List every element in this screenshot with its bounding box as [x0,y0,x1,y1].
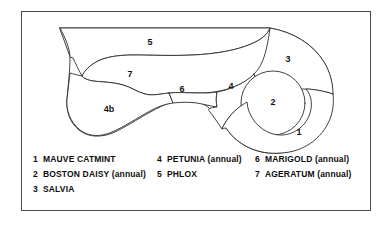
region-label-5: 5 [147,37,152,47]
region-label-7: 7 [127,69,132,79]
region-label-3: 3 [285,54,290,64]
legend-item: 7AGERATUM (annual) [255,167,351,182]
legend-number: 6 [255,152,265,167]
legend-number: 7 [255,167,265,182]
legend-plant-name: MARIGOLD (annual) [265,154,349,164]
legend-plant-name: PETUNIA (annual) [167,154,242,164]
legend-plant-name: BOSTON DAISY (annual) [43,169,146,179]
legend-number: 1 [33,152,43,167]
legend-plant-name: PHLOX [167,169,197,179]
legend-column-3: 6MARIGOLD (annual) 7AGERATUM (annual) [255,152,351,182]
legend-plant-name: MAUVE CATMINT [43,154,116,164]
legend-number: 2 [33,167,43,182]
legend-item: 4PETUNIA (annual) [157,152,242,167]
legend-column-2: 4PETUNIA (annual) 5PHLOX [157,152,242,182]
legend-item: 2BOSTON DAISY (annual) [33,167,146,182]
bed-outline-group [60,28,333,153]
legend-number: 3 [33,182,43,197]
legend-item: 3SALVIA [33,182,146,197]
legend-plant-name: SALVIA [43,184,74,194]
legend-item: 1MAUVE CATMINT [33,152,146,167]
legend-plant-name: AGERATUM (annual) [265,169,351,179]
legend-item: 6MARIGOLD (annual) [255,152,351,167]
legend-column-1: 1MAUVE CATMINT 2BOSTON DAISY (annual) 3S… [33,152,146,197]
region-label-2: 2 [270,97,275,107]
region-label-4-right: 4 [228,81,233,91]
garden-plan-page: 5 7 4b 6 4 3 2 1 1MAUVE CATMINT 2BOSTON … [0,0,392,229]
legend-number: 5 [157,167,167,182]
legend-item: 5PHLOX [157,167,242,182]
plant-legend: 1MAUVE CATMINT 2BOSTON DAISY (annual) 3S… [21,152,371,207]
legend-number: 4 [157,152,167,167]
region-6-marigold [169,92,217,107]
region-label-1: 1 [296,127,301,137]
region-label-6: 6 [179,84,184,94]
region-label-4-left: 4b [104,104,115,114]
